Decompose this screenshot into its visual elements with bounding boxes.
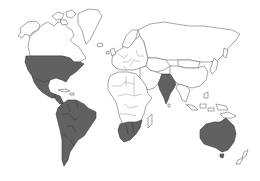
region-south-america <box>56 100 96 166</box>
region-southern-africa <box>118 120 142 142</box>
world-map-svg <box>0 0 260 181</box>
region-tasmania <box>220 154 224 158</box>
region-iceland <box>97 43 103 47</box>
region-central-america <box>54 94 64 104</box>
region-india <box>158 74 176 104</box>
region-new-zealand <box>236 150 248 164</box>
region-caribbean <box>58 89 74 95</box>
region-sakhalin <box>223 48 228 58</box>
region-sri-lanka <box>168 104 170 107</box>
region-australia <box>200 118 236 152</box>
world-map <box>0 0 260 181</box>
region-madagascar <box>148 114 152 128</box>
region-indonesia <box>186 92 228 111</box>
region-uk-ireland <box>106 48 116 56</box>
region-new-guinea <box>220 112 236 118</box>
region-greenland <box>78 9 102 44</box>
region-arctic-islands <box>52 10 76 25</box>
